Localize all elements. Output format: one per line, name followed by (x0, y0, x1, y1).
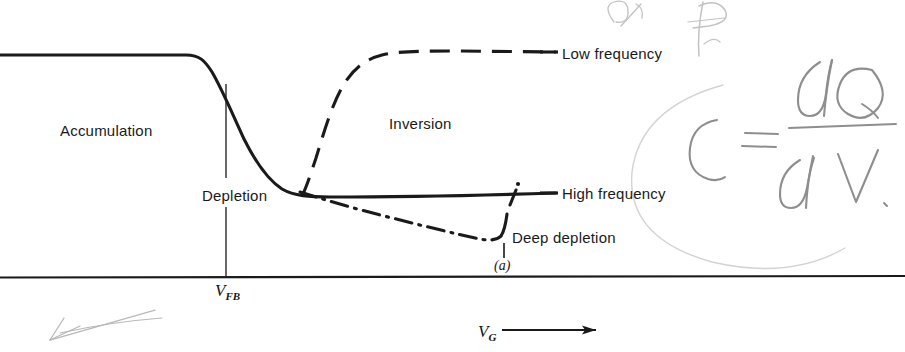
flatband-voltage-subscript: FB (225, 290, 240, 302)
panel-tag-a: (a) (494, 258, 510, 274)
handwritten-formula (690, 60, 896, 208)
cv-curves-svg (0, 0, 905, 352)
deep-depletion-leader (510, 190, 516, 205)
pencil-arc-annotation (632, 85, 845, 268)
x-axis-baseline (0, 276, 905, 278)
flatband-voltage-label: VFB (215, 281, 240, 302)
curve-label-low-frequency: Low frequency (562, 45, 662, 62)
gate-voltage-symbol: V (478, 322, 488, 341)
curve-label-high-frequency: High frequency (562, 185, 666, 202)
x-axis-arrow-icon (502, 326, 596, 335)
region-label-accumulation: Accumulation (60, 122, 152, 139)
deep-depletion-hook (501, 214, 507, 236)
gate-voltage-label: VG (478, 322, 496, 343)
mos-cv-figure: Accumulation Inversion Depletion Low fre… (0, 0, 905, 352)
gate-voltage-subscript: G (488, 331, 496, 343)
pencil-arrow-annotation (50, 310, 162, 340)
flatband-voltage-symbol: V (215, 281, 225, 300)
region-label-depletion: Depletion (202, 187, 267, 204)
curve-label-deep-depletion: Deep depletion (512, 229, 616, 246)
deep-depletion-curve (300, 192, 501, 240)
region-label-inversion: Inversion (389, 115, 452, 132)
deep-depletion-leader-dot (516, 182, 520, 186)
